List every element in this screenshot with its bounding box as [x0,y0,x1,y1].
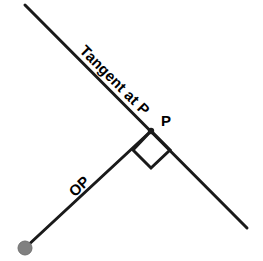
point-p-label: P [161,113,171,128]
right-angle-square-icon [133,131,170,168]
diagram-canvas [0,0,263,261]
point-p-dot [148,128,154,134]
geometry-diagram: Tangent at P OP P [0,0,263,261]
radius-op-line [25,131,151,248]
tangent-line [25,5,247,228]
center-point-o [18,241,32,255]
